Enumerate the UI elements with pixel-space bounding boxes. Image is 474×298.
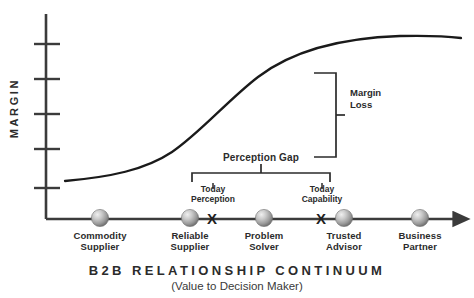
x-mark-capability: X: [316, 211, 326, 226]
stage-1-line-2: Supplier: [150, 242, 230, 253]
stage-marker-trusted-advisor: [335, 209, 352, 226]
margin-loss-bracket: [314, 73, 345, 157]
margin-loss-line-1: Margin: [350, 87, 381, 99]
x-axis-label-trusted-advisor: Trusted Advisor: [304, 231, 384, 252]
today-capability-note: Today Capability: [282, 185, 362, 204]
chart-canvas: [0, 0, 474, 298]
stage-marker-problem-solver: [255, 209, 272, 226]
today-capability-line-2: Capability: [282, 195, 362, 205]
x-mark-perception: X: [207, 211, 217, 226]
x-axis-label-reliable-supplier: Reliable Supplier: [150, 231, 230, 252]
margin-loss-line-2: Loss: [350, 99, 381, 111]
today-perception-line-2: Perception: [173, 195, 253, 205]
stage-2-line-2: Solver: [224, 242, 304, 253]
margin-loss-annotation: Margin Loss: [350, 87, 381, 111]
y-axis-title: MARGIN: [8, 78, 20, 138]
stage-marker-commodity-supplier: [91, 209, 108, 226]
stage-0-line-2: Supplier: [60, 242, 140, 253]
perception-gap-label: Perception Gap: [196, 152, 326, 163]
stage-marker-business-partner: [411, 209, 428, 226]
x-axis-label-business-partner: Business Partner: [380, 231, 460, 252]
chart-subtitle: (Value to Decision Maker): [0, 280, 474, 292]
chart-figure: MARGIN Margin Loss Perception Gap Today …: [0, 0, 474, 298]
perception-gap-bracket: [192, 164, 330, 182]
today-perception-note: Today Perception: [173, 185, 253, 204]
y-axis: [34, 14, 60, 219]
chart-title: B2B RELATIONSHIP CONTINUUM: [0, 263, 474, 278]
stage-marker-reliable-supplier: [181, 209, 198, 226]
x-axis-label-problem-solver: Problem Solver: [224, 231, 304, 252]
stage-3-line-2: Advisor: [304, 242, 384, 253]
stage-4-line-2: Partner: [380, 242, 460, 253]
x-axis-label-commodity-supplier: Commodity Supplier: [60, 231, 140, 252]
